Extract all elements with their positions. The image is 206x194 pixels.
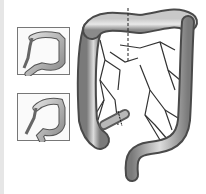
main-colon-illustration (0, 0, 206, 194)
